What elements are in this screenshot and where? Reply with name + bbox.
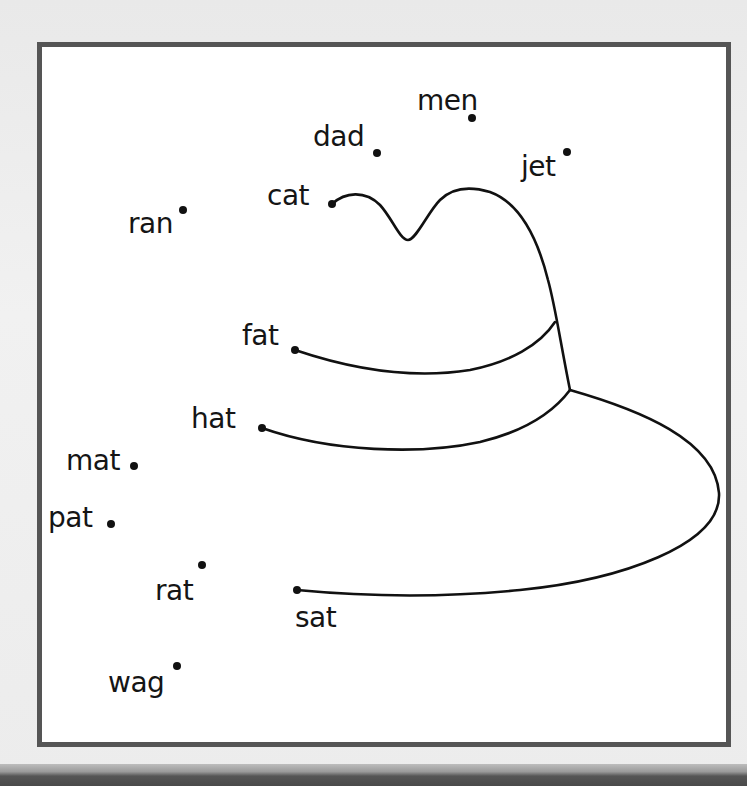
word-dad[interactable]: dad [313, 120, 381, 157]
word-wag[interactable]: wag [108, 662, 181, 699]
dot-pat[interactable] [107, 520, 115, 528]
word-label-pat: pat [48, 501, 93, 534]
hat-drawing: men dad jet cat ran fat hat mat pat rat … [0, 0, 747, 786]
hat-band-lower [262, 390, 570, 450]
dot-ran[interactable] [179, 206, 187, 214]
word-mat[interactable]: mat [66, 444, 138, 477]
word-label-jet: jet [520, 150, 556, 183]
word-rat[interactable]: rat [155, 561, 206, 607]
word-layer: men dad jet cat ran fat hat mat pat rat … [48, 84, 571, 699]
bottom-edge-bar [0, 764, 747, 786]
word-label-ran: ran [128, 207, 173, 240]
hat-crown-outline [332, 189, 570, 390]
word-label-mat: mat [66, 444, 120, 477]
word-label-cat: cat [267, 179, 310, 212]
word-fat[interactable]: fat [242, 319, 299, 354]
word-men[interactable]: men [417, 84, 478, 122]
word-pat[interactable]: pat [48, 501, 115, 534]
dot-mat[interactable] [130, 462, 138, 470]
word-label-hat: hat [191, 402, 236, 435]
word-ran[interactable]: ran [128, 206, 187, 240]
dot-cat[interactable] [328, 200, 336, 208]
word-hat[interactable]: hat [191, 402, 266, 435]
hat-band-upper [295, 322, 555, 373]
word-label-rat: rat [155, 574, 194, 607]
dot-sat[interactable] [293, 586, 301, 594]
word-label-fat: fat [242, 319, 279, 352]
dot-fat[interactable] [291, 346, 299, 354]
dot-dad[interactable] [373, 149, 381, 157]
dot-jet[interactable] [563, 148, 571, 156]
dot-wag[interactable] [173, 662, 181, 670]
dot-rat[interactable] [198, 561, 206, 569]
dot-hat[interactable] [258, 424, 266, 432]
word-jet[interactable]: jet [520, 148, 571, 183]
word-label-men: men [417, 84, 478, 117]
word-label-dad: dad [313, 120, 364, 153]
hat-brim [297, 390, 719, 595]
word-cat[interactable]: cat [267, 179, 336, 212]
word-label-wag: wag [108, 666, 164, 699]
word-label-sat: sat [295, 601, 337, 634]
